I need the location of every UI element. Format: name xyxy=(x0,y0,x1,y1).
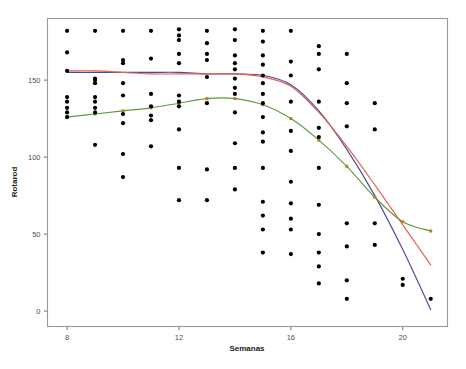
scatter-point xyxy=(317,67,321,71)
scatter-point xyxy=(289,217,293,221)
scatter-point xyxy=(65,110,69,114)
scatter-point xyxy=(233,38,237,42)
scatter-point xyxy=(177,127,181,131)
fitted-curve-marker xyxy=(401,220,404,223)
scatter-point xyxy=(261,63,265,67)
x-tick-label: 8 xyxy=(65,333,69,342)
scatter-point xyxy=(317,135,321,139)
y-axis-title: Rotarod xyxy=(10,167,19,198)
scatter-point xyxy=(289,252,293,256)
y-tick-label: 0 xyxy=(36,307,40,316)
scatter-point xyxy=(65,100,69,104)
x-tick-label: 12 xyxy=(175,333,183,342)
scatter-point xyxy=(205,101,209,105)
scatter-point xyxy=(205,198,209,202)
scatter-point xyxy=(233,187,237,191)
scatter-point xyxy=(205,29,209,33)
scatter-point xyxy=(233,86,237,90)
scatter-point xyxy=(93,110,97,114)
scatter-point xyxy=(65,29,69,33)
scatter-point xyxy=(149,104,153,108)
scatter-point xyxy=(177,52,181,56)
scatter-point xyxy=(261,81,265,85)
fitted-curve-marker xyxy=(429,230,432,233)
scatter-point xyxy=(177,61,181,65)
scatter-point xyxy=(261,40,265,44)
scatter-point xyxy=(289,129,293,133)
scatter-point xyxy=(65,115,69,119)
scatter-point xyxy=(233,61,237,65)
scatter-point xyxy=(121,81,125,85)
scatter-point xyxy=(345,124,349,128)
scatter-point xyxy=(373,127,377,131)
x-tick-label: 20 xyxy=(399,333,407,342)
scatter-point xyxy=(345,297,349,301)
scatter-point xyxy=(177,198,181,202)
scatter-point xyxy=(93,143,97,147)
scatter-point xyxy=(233,67,237,71)
scatter-point xyxy=(121,29,125,33)
scatter-point xyxy=(233,76,237,80)
scatter-point xyxy=(289,149,293,153)
scatter-point xyxy=(261,101,265,105)
scatter-point xyxy=(261,130,265,134)
scatter-point xyxy=(261,227,265,231)
scatter-point xyxy=(345,221,349,225)
scatter-point xyxy=(429,297,433,301)
fitted-curve-marker xyxy=(289,117,292,120)
scatter-point xyxy=(373,243,377,247)
scatter-point xyxy=(345,52,349,56)
scatter-point xyxy=(317,126,321,130)
scatter-point xyxy=(233,92,237,96)
scatter-point xyxy=(233,110,237,114)
scatter-point xyxy=(317,232,321,236)
scatter-point xyxy=(149,56,153,60)
scatter-point xyxy=(289,180,293,184)
fitted-curve-marker xyxy=(373,196,376,199)
y-tick-label: 100 xyxy=(28,153,41,162)
scatter-point xyxy=(121,61,125,65)
scatter-point xyxy=(289,227,293,231)
scatter-point xyxy=(205,167,209,171)
scatter-point xyxy=(233,53,237,57)
scatter-point xyxy=(317,250,321,254)
scatter-point xyxy=(289,29,293,33)
scatter-point xyxy=(65,95,69,99)
scatter-point xyxy=(233,27,237,31)
scatter-point xyxy=(177,33,181,37)
scatter-point xyxy=(317,44,321,48)
scatter-point xyxy=(121,121,125,125)
scatter-point xyxy=(149,113,153,117)
scatter-point xyxy=(289,73,293,77)
scatter-point xyxy=(149,29,153,33)
scatter-point xyxy=(345,244,349,248)
scatter-point xyxy=(317,264,321,268)
fitted-curve-marker xyxy=(345,165,348,168)
fitted-curve-marker xyxy=(205,97,208,100)
scatter-point xyxy=(93,29,97,33)
scatter-point xyxy=(261,214,265,218)
scatter-point xyxy=(93,106,97,110)
scatter-point xyxy=(317,100,321,104)
chart-figure: 8121620 050100150 Semanas Rotarod xyxy=(0,0,466,369)
scatter-point xyxy=(205,52,209,56)
scatter-point xyxy=(261,115,265,119)
scatter-plot-svg: 8121620 050100150 Semanas Rotarod xyxy=(0,0,466,369)
scatter-point xyxy=(121,175,125,179)
scatter-point xyxy=(261,29,265,33)
scatter-point xyxy=(65,50,69,54)
scatter-point xyxy=(177,93,181,97)
scatter-point xyxy=(345,278,349,282)
fitted-curve-marker xyxy=(233,97,236,100)
scatter-point xyxy=(261,92,265,96)
scatter-point xyxy=(205,75,209,79)
scatter-point xyxy=(177,104,181,108)
scatter-point xyxy=(401,283,405,287)
scatter-point xyxy=(177,100,181,104)
y-tick-label: 150 xyxy=(28,76,41,85)
scatter-point xyxy=(65,69,69,73)
scatter-point xyxy=(149,144,153,148)
scatter-point xyxy=(121,93,125,97)
scatter-point xyxy=(289,201,293,205)
scatter-point xyxy=(261,200,265,204)
